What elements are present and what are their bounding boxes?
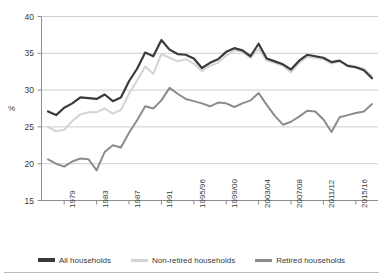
y-tick-marks — [38, 17, 42, 201]
y-tick-label: 25 — [14, 122, 34, 132]
y-tick-label: 20 — [14, 159, 34, 169]
x-tick-label: 2003/04 — [263, 179, 272, 208]
legend-swatch-icon — [131, 259, 148, 262]
plot-area — [0, 0, 383, 278]
legend-swatch-icon — [38, 258, 55, 262]
data-series-group — [48, 40, 372, 170]
x-tick-label: 1991 — [165, 190, 174, 208]
x-tick-label: 1999/00 — [230, 179, 239, 208]
x-tick-label: 2015/16 — [360, 179, 369, 208]
x-tick-label: 2011/12 — [327, 179, 336, 207]
y-tick-label: 15 — [14, 196, 34, 206]
chart-legend: All households Non-retired households Re… — [0, 252, 383, 268]
x-tick-label: 1987 — [133, 190, 142, 208]
legend-swatch-icon — [255, 259, 272, 262]
legend-label: All households — [59, 256, 111, 265]
series-line — [48, 88, 372, 170]
y-tick-label: 35 — [14, 48, 34, 58]
legend-label: Non-retired households — [152, 256, 235, 265]
x-tick-label: 2007/08 — [295, 179, 304, 208]
y-tick-label: 30 — [14, 85, 34, 95]
legend-item-retired-households[interactable]: Retired households — [255, 256, 345, 265]
x-tick-label: 1979 — [68, 190, 77, 208]
legend-item-all-households[interactable]: All households — [38, 256, 111, 265]
legend-label: Retired households — [276, 256, 345, 265]
x-tick-label: 1983 — [101, 190, 110, 208]
line-chart: % 403530252015 19791983198719911995/9619… — [0, 0, 383, 278]
legend-item-non-retired-households[interactable]: Non-retired households — [131, 256, 235, 265]
footer-divider — [4, 272, 379, 273]
x-tick-label: 1995/96 — [198, 179, 207, 208]
gridlines — [42, 17, 379, 164]
y-tick-label: 40 — [14, 12, 34, 22]
series-line — [48, 40, 372, 115]
